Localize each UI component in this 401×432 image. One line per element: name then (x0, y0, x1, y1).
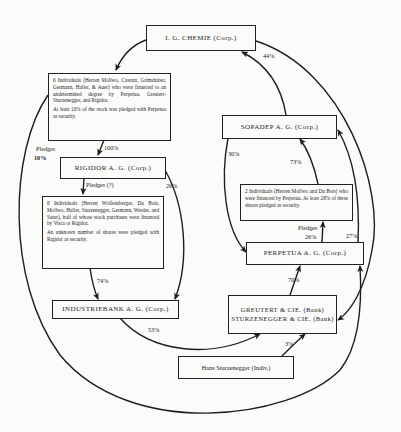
label-100pct: 100% (104, 144, 118, 151)
node-rigidor-label: RIGIDOR A. G. (Corp.) (75, 164, 151, 173)
node-greutert-label: GREUTERT & CIE. (Bank) (241, 306, 324, 314)
eight-individuals-pledge-text: An unknown number of shares were pledged… (47, 229, 159, 243)
label-pledges-left: Pledges (36, 145, 55, 152)
edge-rigidor-industriebank (165, 170, 184, 299)
label-3pct: 3% (285, 340, 293, 347)
node-perpetua: PERPETUA A. G. (Corp.) (246, 242, 364, 265)
node-sturzenegger-label: STURZENEGGER & CIE. (Bank) (231, 315, 334, 323)
node-sopadep: SOPADEP A. G. (Corp.) (222, 115, 337, 139)
label-53pct: 53% (148, 326, 159, 333)
node-igchemie-label: I. G. CHEMIE (Corp.) (165, 34, 236, 43)
label-74pct: 74% (97, 277, 108, 284)
edge-igchemie-six (116, 40, 146, 70)
node-hans-label: Hans Sturzenegger (Indiv.) (202, 364, 271, 372)
six-individuals-pledge-text: At least 10% of the stock was pledged wi… (53, 106, 166, 120)
node-industriebank: INDUSTRIEBANK A. G. (Corp.) (52, 300, 179, 319)
node-rigidor: RIGIDOR A. G. (Corp.) (60, 157, 166, 179)
two-individuals-text: 2 Individuals (Herren Mollwo and Du Bois… (245, 188, 348, 208)
edge-rigidor-eight (83, 178, 84, 194)
label-30pct: 30% (228, 150, 239, 157)
edge-sopadep-igchemie (242, 52, 286, 115)
node-greutert-sturzenegger: GREUTERT & CIE. (Bank) STURZENEGGER & CI… (228, 295, 337, 334)
label-70pct: 70% (288, 276, 299, 283)
label-44pct: 44% (263, 52, 274, 59)
label-26pct-rigidor: 26% (166, 182, 177, 189)
node-eight-individuals: 8 Individuals (Herren Wolfensberger, Du … (42, 196, 164, 269)
node-hans-sturzenegger: Hans Sturzenegger (Indiv.) (178, 356, 294, 379)
label-pledges-rigidor: Pledges (?) (86, 181, 114, 188)
label-73pct: 73% (290, 158, 301, 165)
node-six-individuals: 6 Individuals (Herren Mollwo, Castani, G… (48, 73, 171, 141)
eight-individuals-text: 8 Individuals (Herren Wolfensberger, Du … (47, 200, 159, 227)
node-industriebank-label: INDUSTRIEBANK A. G. (Corp.) (62, 305, 168, 314)
ownership-diagram: I. G. CHEMIE (Corp.) 6 Individuals (Herr… (0, 0, 401, 432)
edge-perpetua-two (322, 222, 323, 242)
edge-perpetua-sopadep (300, 139, 318, 184)
label-10pct: 10% (34, 154, 46, 161)
node-sopadep-label: SOPADEP A. G. (Corp.) (241, 123, 319, 132)
node-perpetua-label: PERPETUA A. G. (Corp.) (264, 249, 347, 258)
edge-igchemie-greutert (256, 41, 374, 320)
label-26pct-two: 26% (305, 233, 316, 240)
node-two-individuals: 2 Individuals (Herren Mollwo and Du Bois… (240, 184, 353, 221)
six-individuals-text: 6 Individuals (Herren Mollwo, Castani, G… (53, 77, 166, 104)
node-igchemie: I. G. CHEMIE (Corp.) (146, 25, 256, 51)
label-27pct: 27% (346, 232, 357, 239)
label-pledges-two: Pledges (298, 224, 317, 231)
